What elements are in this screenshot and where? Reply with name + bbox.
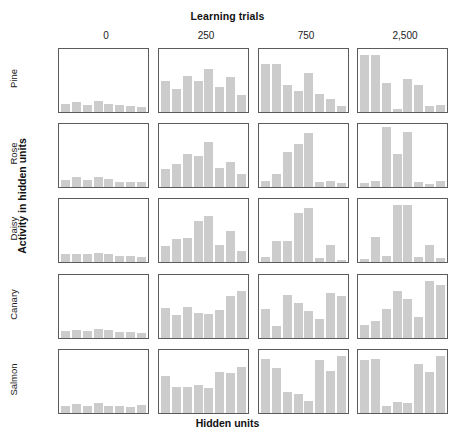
- panel-canary-250: [158, 274, 249, 339]
- bar-1: [61, 406, 70, 413]
- bar-1: [161, 376, 170, 413]
- bar-series: [61, 126, 146, 187]
- panel-canary-2-500: [357, 274, 448, 339]
- bar-series: [261, 126, 346, 187]
- bar-1: [360, 360, 369, 413]
- bar-6: [115, 332, 124, 338]
- bar-series: [61, 352, 146, 413]
- bar-8: [436, 258, 445, 262]
- bar-7: [425, 281, 434, 338]
- bar-4: [294, 213, 303, 262]
- bar-8: [436, 105, 445, 112]
- bar-8: [237, 291, 246, 338]
- bar-series: [161, 352, 246, 413]
- bar-7: [326, 293, 335, 338]
- bar-series: [61, 201, 146, 262]
- panel-pine-750: [258, 48, 349, 113]
- panel-rose-0: [58, 123, 149, 188]
- bar-8: [237, 367, 246, 413]
- bar-5: [403, 299, 412, 338]
- bar-6: [115, 256, 124, 262]
- bar-7: [326, 181, 335, 187]
- bar-1: [261, 64, 270, 112]
- bar-3: [183, 76, 192, 112]
- panel-daisy-0: [58, 198, 149, 263]
- bar-6: [315, 258, 324, 262]
- bar-7: [126, 182, 135, 187]
- bar-3: [283, 392, 292, 413]
- bar-6: [315, 360, 324, 413]
- bar-3: [382, 83, 391, 112]
- bar-1: [261, 359, 270, 413]
- bar-3: [283, 295, 292, 338]
- bar-3: [283, 85, 292, 112]
- bar-4: [393, 109, 402, 112]
- bar-8: [436, 181, 445, 187]
- bar-5: [204, 69, 213, 112]
- bar-series: [261, 201, 346, 262]
- bar-6: [215, 87, 224, 112]
- bar-series: [161, 201, 246, 262]
- bar-2: [72, 254, 81, 262]
- bar-1: [360, 183, 369, 187]
- bar-4: [94, 101, 103, 112]
- bar-5: [104, 179, 113, 187]
- bar-1: [61, 180, 70, 187]
- bar-7: [126, 256, 135, 262]
- row-label-canary: Canary: [8, 270, 19, 340]
- column-header-0: 0: [58, 30, 154, 41]
- bar-7: [425, 245, 434, 262]
- bar-1: [161, 81, 170, 112]
- bar-3: [83, 406, 92, 413]
- bar-1: [360, 55, 369, 112]
- bar-6: [115, 105, 124, 112]
- bar-8: [337, 106, 346, 112]
- bar-5: [403, 403, 412, 413]
- x-axis-title: Hidden units: [0, 417, 455, 429]
- panel-rose-2-500: [357, 123, 448, 188]
- bar-4: [94, 177, 103, 187]
- bar-8: [337, 260, 346, 262]
- bar-series: [261, 352, 346, 413]
- bar-8: [137, 107, 146, 112]
- bar-3: [83, 331, 92, 338]
- bar-2: [272, 64, 281, 112]
- bar-5: [104, 104, 113, 112]
- bar-4: [294, 394, 303, 413]
- bar-3: [183, 307, 192, 338]
- bar-8: [137, 405, 146, 413]
- bar-3: [382, 256, 391, 262]
- bar-4: [393, 154, 402, 187]
- panel-salmon-250: [158, 349, 249, 414]
- bar-8: [137, 182, 146, 187]
- panel-salmon-0: [58, 349, 149, 414]
- bar-6: [414, 317, 423, 338]
- bar-7: [226, 77, 235, 112]
- bar-2: [172, 164, 181, 187]
- bar-4: [94, 253, 103, 262]
- bar-2: [72, 404, 81, 413]
- bar-8: [237, 95, 246, 112]
- bar-4: [94, 329, 103, 338]
- bar-3: [183, 238, 192, 262]
- bar-2: [371, 237, 380, 262]
- bar-1: [161, 246, 170, 262]
- bar-1: [261, 257, 270, 262]
- bar-5: [104, 330, 113, 338]
- bar-8: [137, 257, 146, 262]
- bar-5: [204, 314, 213, 338]
- bar-4: [194, 313, 203, 338]
- bar-6: [414, 182, 423, 187]
- bar-8: [436, 356, 445, 413]
- column-header-row: 0 250 750 2,500: [58, 30, 452, 46]
- bar-4: [194, 156, 203, 187]
- bar-5: [204, 216, 213, 262]
- bar-7: [326, 371, 335, 413]
- bar-4: [393, 291, 402, 338]
- panel-canary-0: [58, 274, 149, 339]
- bar-1: [161, 308, 170, 338]
- row-label-rose: Rose: [8, 119, 19, 189]
- bar-8: [237, 174, 246, 187]
- panel-pine-0: [58, 48, 149, 113]
- bar-4: [393, 402, 402, 413]
